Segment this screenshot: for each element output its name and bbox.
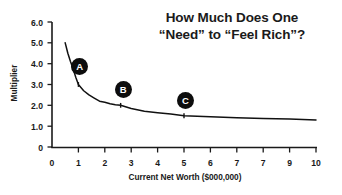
x-tick-label-2: 2 (95, 158, 115, 168)
y-tick-label-4: 4.0 (17, 59, 43, 69)
chart-title-line-2: “Need” to “Feel Rich”? (128, 27, 336, 44)
x-tick-label-4: 4 (148, 158, 168, 168)
x-tick-label-10: 10 (306, 158, 326, 168)
chart-figure: How Much Does One “Need” to “Feel Rich”?… (0, 0, 342, 195)
x-tick-label-9: 9 (280, 158, 300, 168)
data-series-line (65, 43, 316, 120)
y-axis-title: Multiplier (9, 50, 19, 116)
x-tick-label-5: 5 (174, 158, 194, 168)
x-tick-label-8: 7 (253, 158, 273, 168)
x-tick-label-1: 1 (68, 158, 88, 168)
chart-title-line-1: How Much Does One (128, 10, 336, 27)
chart-title: How Much Does One “Need” to “Feel Rich”? (128, 10, 336, 43)
x-tick-label-0: 0 (42, 158, 62, 168)
x-axis-title: Current Net Worth ($000,000) (52, 172, 318, 182)
annotation-marker-b: B (115, 81, 132, 98)
y-tick-label-2: 2.0 (17, 101, 43, 111)
x-tick-label-3: 3 (121, 158, 141, 168)
y-tick-label-3: 3.0 (17, 80, 43, 90)
x-tick-label-7: 7 (227, 158, 247, 168)
y-tick-label-5: 5.0 (17, 38, 43, 48)
x-tick-label-6: 6 (200, 158, 220, 168)
y-tick-label-6: 6.0 (17, 18, 43, 28)
y-tick-label-0: 0 (17, 143, 43, 153)
y-tick-label-1: 1.0 (17, 122, 43, 132)
annotation-marker-c: C (177, 92, 194, 109)
